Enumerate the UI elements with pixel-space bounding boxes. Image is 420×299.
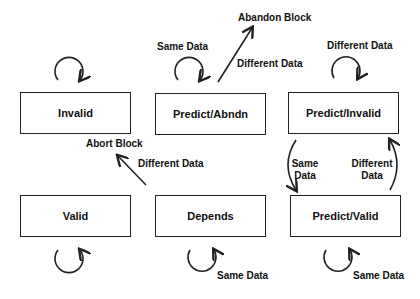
label-pvalid-same: Same Data bbox=[353, 270, 404, 281]
state-predict-invalid: Predict/Invalid bbox=[288, 92, 399, 134]
label-pv-to-pi-different: Different Data bbox=[350, 158, 394, 182]
state-valid: Valid bbox=[20, 195, 131, 237]
state-label: Invalid bbox=[58, 107, 93, 119]
state-label: Depends bbox=[187, 210, 233, 222]
label-pinvalid-different: Different Data bbox=[327, 40, 393, 51]
state-depends: Depends bbox=[155, 195, 266, 237]
invalid-self-loop-icon bbox=[55, 57, 83, 80]
abndn-self-loop-icon bbox=[175, 57, 203, 80]
label-abandon-block: Abandon Block bbox=[238, 12, 311, 23]
valid-self-loop-icon bbox=[55, 250, 83, 273]
label-pi-to-pv-same: Same Data bbox=[288, 158, 322, 182]
depends-self-loop-icon bbox=[188, 250, 216, 271]
pinvalid-self-loop-icon bbox=[332, 57, 360, 78]
label-abort-block: Abort Block bbox=[86, 138, 143, 149]
pvalid-self-loop-icon bbox=[324, 250, 352, 271]
state-predict-abndn: Predict/Abndn bbox=[155, 93, 266, 135]
state-label: Predict/Valid bbox=[312, 210, 378, 222]
label-depends-same: Same Data bbox=[217, 270, 268, 281]
state-label: Valid bbox=[63, 210, 89, 222]
state-invalid: Invalid bbox=[20, 92, 131, 134]
state-label: Predict/Abndn bbox=[173, 108, 248, 120]
label-depends-to-abort: Different Data bbox=[138, 158, 204, 169]
label-abndn-different: Different Data bbox=[237, 58, 303, 69]
state-predict-valid: Predict/Valid bbox=[290, 195, 401, 237]
abandon-arrow-icon bbox=[218, 28, 252, 82]
state-label: Predict/Invalid bbox=[306, 107, 381, 119]
label-abndn-same: Same Data bbox=[157, 41, 208, 52]
